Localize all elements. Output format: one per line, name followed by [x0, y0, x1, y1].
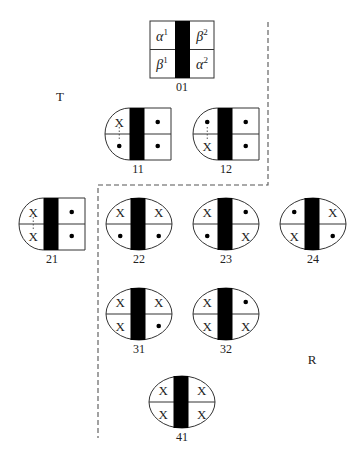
node-label-24: 24 — [307, 252, 319, 266]
x-marker: X — [203, 139, 213, 154]
x-marker: X — [116, 319, 126, 334]
centromere-bar — [131, 198, 146, 250]
dot-marker — [118, 234, 123, 239]
dot-marker — [155, 144, 160, 149]
dot-marker — [292, 210, 297, 215]
node-11: X11 — [105, 108, 171, 176]
node-31: XXX31 — [106, 288, 172, 356]
x-marker: X — [197, 407, 207, 422]
node-12: X12 — [193, 108, 259, 176]
node-label-11: 11 — [132, 162, 144, 176]
dot-marker — [155, 120, 160, 125]
dot-marker — [243, 144, 248, 149]
dot-marker — [156, 234, 161, 239]
node-21: XX21 — [19, 198, 85, 266]
legend-node-01: α1β2β1α201 — [150, 21, 214, 94]
region-label-R: R — [308, 352, 317, 367]
centromere-bar — [44, 198, 59, 250]
node-label-23: 23 — [220, 252, 232, 266]
x-marker: X — [328, 205, 338, 220]
x-marker: X — [290, 229, 300, 244]
centromere-bar — [174, 376, 189, 428]
region-label-T: T — [56, 89, 64, 104]
dot-marker — [117, 144, 122, 149]
dot-marker — [330, 234, 335, 239]
dot-marker — [156, 324, 161, 329]
node-label-41: 41 — [176, 430, 188, 444]
centromere-bar — [131, 288, 146, 340]
x-marker: X — [203, 319, 213, 334]
x-marker: X — [159, 407, 169, 422]
x-marker: X — [159, 383, 169, 398]
diagram-svg: TR α1β2β1α201 X11X12XX21XX22XX23XX24XXX3… — [0, 0, 362, 451]
centromere-bar — [305, 198, 320, 250]
x-marker: X — [116, 295, 126, 310]
centromere-bar — [218, 108, 233, 160]
dot-marker — [69, 210, 74, 215]
dot-marker — [205, 234, 210, 239]
node-label-12: 12 — [220, 162, 232, 176]
x-marker: X — [241, 319, 251, 334]
dot-marker — [69, 234, 74, 239]
x-marker: X — [203, 205, 213, 220]
x-marker: X — [154, 295, 164, 310]
node-label-22: 22 — [133, 252, 145, 266]
x-marker: X — [29, 229, 39, 244]
centromere-bar — [175, 21, 190, 78]
dot-marker — [205, 120, 210, 125]
node-label-32: 32 — [220, 342, 232, 356]
dot-marker — [243, 210, 248, 215]
node-32: XXX32 — [193, 288, 259, 356]
centromere-bar — [130, 108, 145, 160]
node-label-31: 31 — [133, 342, 145, 356]
dot-marker — [243, 300, 248, 305]
region-labels: TR — [56, 89, 317, 367]
node-22: XX22 — [106, 198, 172, 266]
node-label-21: 21 — [46, 252, 58, 266]
node-label-01: 01 — [176, 80, 188, 94]
state-nodes: X11X12XX21XX22XX23XX24XXX31XXX32XXXX41 — [19, 108, 346, 444]
state-diagram: TR α1β2β1α201 X11X12XX21XX22XX23XX24XXX3… — [0, 0, 362, 451]
x-marker: X — [116, 205, 126, 220]
x-marker: X — [241, 229, 251, 244]
x-marker: X — [154, 205, 164, 220]
centromere-bar — [218, 288, 233, 340]
x-marker: X — [203, 295, 213, 310]
node-41: XXXX41 — [149, 376, 215, 444]
centromere-bar — [218, 198, 233, 250]
node-24: XX24 — [280, 198, 346, 266]
x-marker: X — [197, 383, 207, 398]
dot-marker — [243, 120, 248, 125]
node-23: XX23 — [193, 198, 259, 266]
